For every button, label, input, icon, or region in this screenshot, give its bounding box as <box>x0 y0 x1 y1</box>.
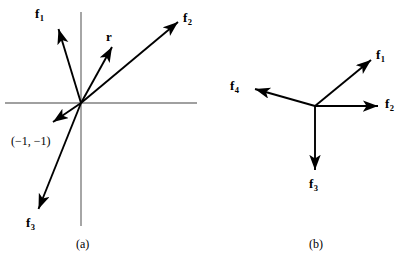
vector-r-arrow <box>81 47 112 103</box>
caption-panel-b: (b) <box>309 237 323 252</box>
vector-f3-arrow <box>39 103 82 209</box>
vector-f2-arrow <box>81 22 178 103</box>
vector-label-r: r <box>106 30 112 43</box>
vector-label-f4: f4 <box>230 79 239 92</box>
vector-f1-arrow <box>59 29 82 103</box>
point-coordinate-label: (−1, −1) <box>11 134 51 149</box>
vector-f4-arrow <box>255 89 315 106</box>
caption-panel-a: (a) <box>76 237 89 252</box>
vector-f1-arrow <box>315 60 371 106</box>
vector-label-f1: f1 <box>376 48 385 61</box>
vector-label-f3: f3 <box>26 216 35 229</box>
vector-label-f3: f3 <box>309 177 318 190</box>
vector-label-f2: f2 <box>385 97 394 110</box>
panel-b-drawing <box>205 0 409 261</box>
panel-a: f1 f2 r f3 (−1, −1) (a) <box>0 0 205 261</box>
vector-label-f2: f2 <box>183 11 192 24</box>
panel-b: f1 f2 f3 f4 (b) <box>205 0 409 261</box>
figure-canvas: f1 f2 r f3 (−1, −1) (a) f1 f2 f3 f4 (b) <box>0 0 409 261</box>
vector-label-f1: f1 <box>35 7 44 20</box>
